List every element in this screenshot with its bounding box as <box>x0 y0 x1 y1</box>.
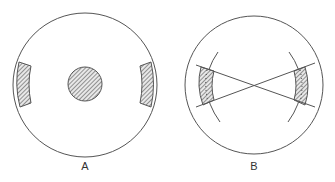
panel-b-left-hatched-segment <box>199 67 214 105</box>
panel-a-left-hatched-patch <box>17 62 31 107</box>
panel-a-label: A <box>81 160 89 172</box>
panel-a: A <box>13 13 157 172</box>
diagram-canvas: A B <box>0 0 335 182</box>
panel-a-central-hatched-disk <box>68 67 102 101</box>
panel-a-right-hatched-patch <box>140 62 154 107</box>
panel-b-right-hatched-segment <box>294 67 308 105</box>
panel-b-label: B <box>250 160 257 172</box>
panel-b: B <box>185 16 323 172</box>
